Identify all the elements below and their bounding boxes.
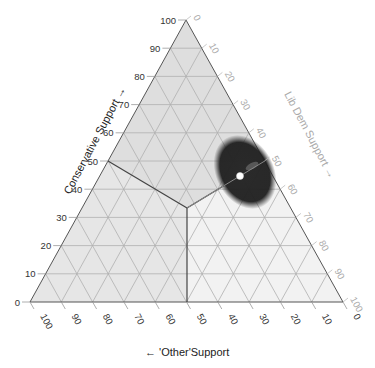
tick-mark bbox=[202, 44, 207, 48]
tick-label-other: 40 bbox=[226, 312, 241, 327]
tick-label-conservative: 30 bbox=[56, 212, 67, 223]
tick-mark bbox=[217, 72, 222, 76]
tick-mark bbox=[312, 302, 316, 309]
tick-mark bbox=[280, 302, 284, 309]
tick-mark bbox=[280, 185, 285, 189]
tick-mark bbox=[124, 302, 128, 309]
tick-label-conservative: 10 bbox=[25, 268, 36, 279]
tick-label-other: 20 bbox=[289, 312, 304, 327]
tick-mark bbox=[249, 302, 253, 309]
tick-mark bbox=[296, 213, 301, 217]
tick-label-lib-dem: 60 bbox=[285, 182, 300, 197]
tick-label-other: 90 bbox=[70, 312, 85, 327]
tick-label-conservative: 0 bbox=[15, 297, 20, 308]
tick-label-other: 60 bbox=[163, 312, 178, 327]
tick-mark bbox=[30, 302, 34, 309]
tick-label-other: 70 bbox=[132, 312, 147, 327]
tick-mark bbox=[218, 302, 222, 309]
tick-label-other: 10 bbox=[320, 312, 335, 327]
tick-mark bbox=[312, 242, 317, 246]
tick-label-conservative: 100 bbox=[160, 15, 176, 26]
tick-mark bbox=[233, 101, 238, 105]
tick-label-lib-dem: 0 bbox=[191, 13, 203, 23]
tick-mark bbox=[93, 302, 97, 309]
tick-label-lib-dem: 90 bbox=[333, 267, 348, 282]
tick-mark bbox=[155, 302, 159, 309]
axis-title-lib-dem: Lib Dem Support → bbox=[282, 89, 338, 180]
tick-label-other: 80 bbox=[101, 312, 116, 327]
tick-mark bbox=[186, 16, 191, 20]
tick-label-conservative: 80 bbox=[134, 71, 145, 82]
tick-label-other: 0 bbox=[351, 312, 363, 322]
axis-title-other: ← 'Other'Support bbox=[145, 346, 229, 358]
tick-label-lib-dem: 40 bbox=[254, 126, 269, 141]
tick-label-lib-dem: 70 bbox=[301, 210, 316, 225]
tick-label-lib-dem: 10 bbox=[207, 41, 222, 56]
tick-label-lib-dem: 30 bbox=[238, 97, 253, 112]
tick-mark bbox=[61, 302, 65, 309]
tick-mark bbox=[249, 129, 254, 133]
tick-label-lib-dem: 80 bbox=[317, 238, 332, 253]
ternary-chart: 0102030405060708090100010203040506070809… bbox=[0, 0, 375, 368]
data-point[interactable] bbox=[237, 173, 244, 180]
tick-mark bbox=[343, 298, 348, 302]
tick-mark bbox=[187, 302, 191, 309]
tick-label-other: 30 bbox=[257, 312, 272, 327]
tick-label-conservative: 20 bbox=[41, 240, 52, 251]
tick-mark bbox=[343, 302, 347, 309]
tick-mark bbox=[327, 270, 332, 274]
tick-label-other: 50 bbox=[195, 312, 210, 327]
tick-label-other: 100 bbox=[38, 312, 55, 331]
tick-label-lib-dem: 100 bbox=[348, 295, 365, 314]
tick-label-lib-dem: 20 bbox=[223, 69, 238, 84]
tick-label-conservative: 90 bbox=[150, 43, 161, 54]
